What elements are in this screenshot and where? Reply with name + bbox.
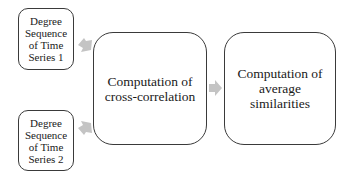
node-cross-correlation: Computation of cross-correlation bbox=[93, 32, 207, 145]
node-label: Computation of cross-correlation bbox=[105, 74, 196, 104]
arrow-crosscorr-to-avgsim bbox=[209, 80, 222, 96]
node-average-similarities: Computation of average similarities bbox=[224, 32, 336, 145]
node-label: Degree Sequence of Time Series 1 bbox=[25, 15, 67, 63]
node-degree-sequence-series-2: Degree Sequence of Time Series 2 bbox=[18, 110, 74, 171]
arrow-input2-to-crosscorr bbox=[78, 121, 92, 135]
node-label: Degree Sequence of Time Series 2 bbox=[25, 117, 67, 165]
node-label: Computation of average similarities bbox=[237, 66, 322, 111]
node-degree-sequence-series-1: Degree Sequence of Time Series 1 bbox=[18, 8, 74, 70]
arrow-input1-to-crosscorr bbox=[78, 38, 92, 52]
